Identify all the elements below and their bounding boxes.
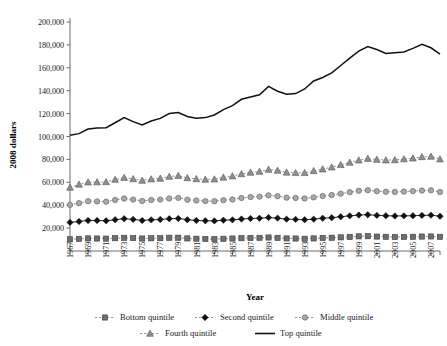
data-point [329,192,334,197]
data-point [257,194,262,199]
data-point [229,173,236,179]
data-point [76,236,81,241]
data-point [374,189,379,194]
data-point [292,169,299,175]
data-point [419,188,424,193]
data-point [283,216,289,222]
data-point [437,234,442,239]
x-tick-label: 1971 [102,242,111,258]
data-point [103,218,109,224]
x-tick-label: 2005 [409,242,418,258]
data-point [265,166,272,172]
data-point [239,195,244,200]
data-point [211,218,217,224]
y-tick-label: 40,000 [42,201,64,210]
data-point [112,217,118,223]
data-point [437,213,443,219]
data-point [275,193,280,198]
data-point [239,236,244,241]
data-point [320,235,325,240]
data-point [202,218,208,224]
data-point [374,212,380,218]
data-point [256,215,262,221]
legend-item-top-quintile[interactable]: Top quintile [255,328,322,338]
data-point [383,213,389,219]
data-point [310,216,316,222]
y-axis: 20,00040,00060,00080,000100,000120,00014… [38,18,70,251]
data-point [85,198,90,203]
data-point [185,197,190,202]
data-point [347,213,353,219]
data-point [148,217,154,223]
data-point [103,236,108,241]
series-fourth-quintile [67,153,444,190]
data-point [383,234,388,239]
x-tick-label: 2007 [427,242,436,258]
data-point [346,159,353,165]
data-point [356,212,362,218]
x-tick-label: 1997 [337,242,346,258]
data-point [149,236,154,241]
data-point [428,234,433,239]
data-point [121,174,128,180]
data-point [139,217,145,223]
x-tick-label: 1991 [283,242,292,258]
legend-item-bottom-quintile[interactable]: Bottom quintile [95,312,174,322]
legend-item-fourth-quintile[interactable]: Fourth quintile [140,328,217,338]
data-point [356,234,361,239]
data-point [428,188,433,193]
data-point [121,216,127,222]
data-point [94,236,99,241]
data-point [419,212,425,218]
legend-item-second-quintile[interactable]: Second quintile [195,312,274,322]
data-point [284,195,289,200]
legend-item-middle-quintile[interactable]: Middle quintile [295,312,373,322]
data-point [158,197,163,202]
x-tick-label: 1995 [319,242,328,258]
data-point [149,197,154,202]
x-tick-label: 1985 [229,242,238,258]
data-point [130,216,136,222]
data-point [428,153,435,159]
y-tick-label: 200,000 [38,18,64,27]
data-point [130,197,135,202]
data-point [67,184,74,190]
data-point [256,168,263,174]
data-point [292,216,298,222]
data-point [356,188,361,193]
series-second-quintile [67,212,443,226]
legend-label: Bottom quintile [120,312,174,322]
data-point [139,198,144,203]
data-point [428,212,434,218]
data-point [166,173,173,179]
data-point [103,199,108,204]
data-point [410,188,415,193]
data-point [293,236,298,241]
data-point [347,234,352,239]
data-point [374,234,379,239]
data-point [212,198,217,203]
series-middle-quintile [67,188,442,208]
data-point [176,195,181,200]
data-point [167,196,172,201]
data-point [419,234,424,239]
y-tick-label: 160,000 [38,64,64,73]
data-point [103,179,110,185]
data-point [184,217,190,223]
data-point [401,189,406,194]
data-point [302,196,307,201]
x-tick-label: 2003 [391,242,400,258]
data-point [220,217,226,223]
data-point [382,157,389,163]
data-point [248,194,253,199]
data-point [157,216,163,222]
data-point [157,175,164,181]
x-tick-label: 1975 [138,242,147,258]
data-point [67,219,73,225]
data-point [410,155,417,161]
y-tick-label: 120,000 [38,110,64,119]
data-point [257,235,262,240]
data-point [212,236,217,241]
legend-label: Middle quintile [320,312,373,322]
data-point [437,189,442,194]
